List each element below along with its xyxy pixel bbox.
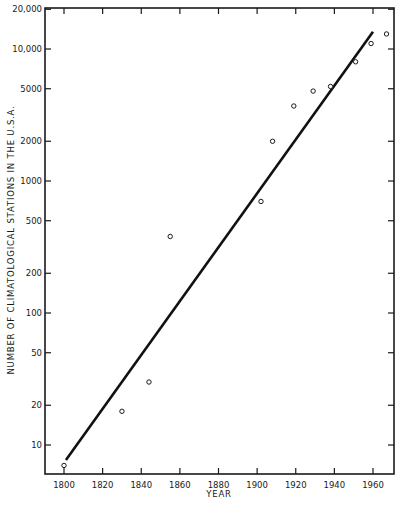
x-axis-title: YEAR (205, 489, 231, 499)
regression-line (66, 32, 373, 460)
y-axis-title: NUMBER OF CLIMATOLOGICAL STATIONS IN THE… (6, 105, 16, 374)
y-tick-label: 500 (26, 216, 42, 226)
data-point-marker (292, 104, 296, 108)
y-tick-label: 10,000 (12, 44, 42, 54)
x-tick-label: 1960 (362, 480, 384, 490)
chart: 180018201840186018801900192019401960 102… (0, 0, 404, 505)
data-point-marker (270, 139, 274, 143)
y-tick-label: 1000 (20, 176, 42, 186)
y-tick-label: 2000 (20, 136, 42, 146)
data-point-marker (328, 84, 332, 88)
y-tick-label: 50 (31, 348, 42, 358)
data-point-marker (369, 41, 373, 45)
x-tick-label: 1800 (53, 480, 75, 490)
y-tick-label: 20 (31, 400, 42, 410)
data-point-marker (353, 60, 357, 64)
x-tick-label: 1840 (130, 480, 152, 490)
y-tick-label: 200 (26, 268, 42, 278)
fit-line (66, 32, 373, 460)
x-tick-label: 1860 (169, 480, 191, 490)
data-point-marker (259, 199, 263, 203)
y-tick-label: 100 (26, 308, 42, 318)
data-point-marker (120, 409, 124, 413)
x-tick-label: 1940 (324, 480, 346, 490)
y-tick-label: 10 (31, 440, 42, 450)
x-tick-label: 1920 (285, 480, 307, 490)
data-point-marker (62, 463, 66, 467)
y-tick-label: 5000 (20, 84, 42, 94)
x-tick-label: 1900 (246, 480, 268, 490)
data-points (62, 32, 389, 468)
data-point-marker (147, 380, 151, 384)
x-tick-label: 1820 (92, 480, 114, 490)
data-point-marker (311, 89, 315, 93)
y-axis: 10205010020050010002000500010,00020,000 (12, 4, 394, 450)
data-point-marker (168, 234, 172, 238)
y-tick-label: 20,000 (12, 4, 42, 14)
data-point-marker (384, 32, 388, 36)
plot-frame (45, 8, 394, 474)
